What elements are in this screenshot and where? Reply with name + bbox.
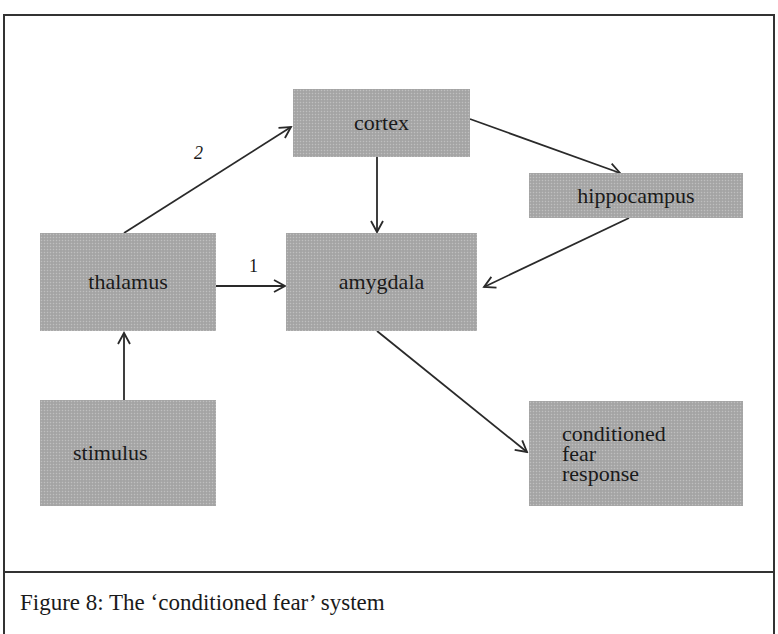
arrow-thalamus-to-cortex bbox=[124, 127, 291, 233]
node-amygdala: amygdala bbox=[286, 233, 477, 331]
node-label: conditioned fear response bbox=[562, 424, 666, 484]
node-label: cortex bbox=[354, 113, 409, 133]
node-label: hippocampus bbox=[577, 186, 694, 206]
node-label: stimulus bbox=[73, 443, 148, 463]
arrow-cortex-to-hippocampus bbox=[470, 119, 620, 173]
node-label: amygdala bbox=[339, 272, 425, 292]
node-label: thalamus bbox=[88, 272, 167, 292]
node-conditioned-fear-response: conditioned fear response bbox=[529, 401, 743, 506]
node-thalamus: thalamus bbox=[40, 233, 216, 331]
node-hippocampus: hippocampus bbox=[529, 173, 743, 218]
node-cortex: cortex bbox=[293, 89, 470, 157]
figure-caption: Figure 8: The ‘conditioned fear’ system bbox=[20, 590, 385, 616]
arrow-hippocampus-to-amygdala bbox=[484, 218, 629, 287]
node-stimulus: stimulus bbox=[40, 400, 216, 506]
edge-label-pathway-1: 1 bbox=[249, 256, 258, 277]
arrow-amygdala-to-response bbox=[377, 331, 527, 452]
edge-label-pathway-2: 2 bbox=[194, 143, 203, 164]
